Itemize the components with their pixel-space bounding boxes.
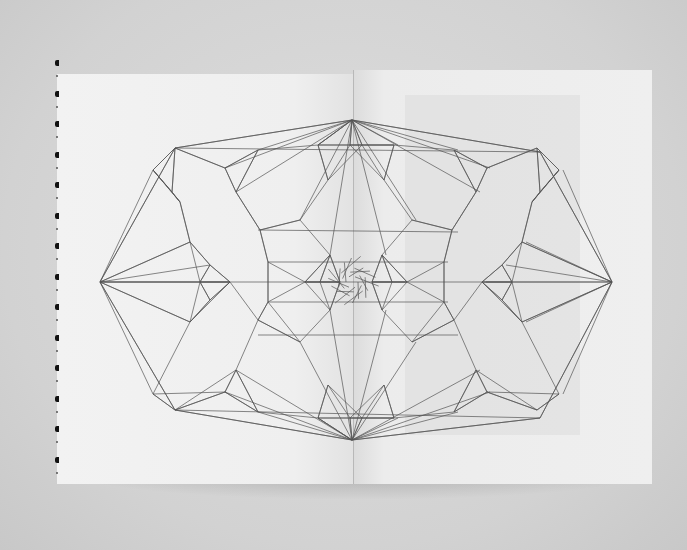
drawing-line: [384, 180, 412, 220]
drawing-line: [305, 255, 330, 282]
drawing-line: [372, 255, 382, 282]
drawing-line: [236, 192, 260, 230]
drawing-line: [476, 370, 537, 410]
drawing-line: [354, 268, 375, 277]
drawing-line: [355, 277, 379, 286]
drawing-line: [352, 120, 490, 168]
drawing-line: [365, 277, 366, 298]
drawing-line: [412, 220, 452, 230]
drawing-line: [506, 265, 612, 282]
drawing-line: [268, 282, 305, 302]
drawing-line: [482, 282, 522, 322]
drawing-line: [352, 370, 480, 440]
drawing-line: [153, 170, 180, 202]
drawing-line: [300, 180, 328, 220]
drawing-line: [394, 145, 454, 150]
drawing-line: [476, 168, 487, 192]
drawing-line: [258, 120, 352, 150]
drawing-line: [350, 385, 384, 418]
drawing-line: [328, 145, 350, 180]
drawing-line: [100, 148, 175, 282]
drawing-line: [330, 120, 352, 255]
drawing-line: [225, 120, 352, 168]
drawing-line: [487, 392, 537, 410]
drawing-line: [344, 291, 362, 305]
drawing-line: [352, 418, 540, 440]
drawing-line: [300, 342, 352, 440]
drawing-line: [358, 282, 359, 299]
drawing-line: [320, 255, 330, 282]
drawing-line: [537, 148, 540, 192]
drawing-line: [190, 282, 230, 322]
drawing-line: [487, 148, 537, 168]
drawing-line: [540, 282, 612, 418]
drawing-line: [563, 282, 612, 394]
drawing-line: [175, 148, 225, 168]
drawing-line: [444, 302, 454, 320]
drawing-line: [175, 410, 352, 440]
drawing-line: [360, 276, 368, 291]
drawing-line: [175, 120, 352, 148]
drawing-line: [180, 202, 190, 242]
drawing-line: [384, 385, 394, 418]
drawing-line: [100, 282, 175, 410]
drawing-line: [526, 282, 612, 322]
drawing-line: [454, 320, 476, 370]
drawing-line: [331, 286, 349, 296]
drawing-line: [330, 255, 340, 282]
drawing-line: [352, 120, 386, 255]
drawing-line: [372, 282, 382, 310]
drawing-line: [320, 282, 330, 310]
drawing-line: [318, 120, 352, 145]
drawing-line: [172, 148, 175, 192]
drawing-line: [502, 265, 512, 282]
drawing-line: [225, 168, 236, 192]
drawing-line: [153, 392, 225, 394]
drawing-line: [337, 291, 354, 292]
drawing-line: [200, 265, 210, 282]
drawing-line: [487, 392, 559, 394]
drawing-line: [268, 262, 305, 282]
drawing-line: [482, 282, 502, 300]
drawing-line: [352, 310, 386, 440]
drawing-line: [444, 230, 452, 262]
drawing-line: [100, 282, 153, 394]
drawing-line: [236, 370, 352, 440]
drawing-line: [454, 282, 482, 320]
drawing-line: [225, 392, 352, 440]
drawing-line: [330, 310, 352, 440]
drawing-line: [175, 370, 236, 410]
drawing-line: [210, 265, 230, 282]
drawing-line: [522, 202, 532, 242]
drawing-line: [260, 230, 268, 262]
drawing-line: [350, 271, 370, 272]
drawing-line: [260, 220, 300, 230]
drawing-line: [452, 192, 476, 230]
drawing-line: [100, 265, 210, 282]
drawing-line: [540, 152, 612, 282]
drawing-line: [153, 394, 175, 410]
drawing-line: [258, 302, 268, 320]
drawing-line: [382, 310, 412, 342]
drawing-line: [100, 282, 190, 322]
drawing-line: [318, 145, 328, 180]
drawing-line: [407, 262, 444, 282]
drawing-line: [153, 148, 175, 170]
drawing-line: [482, 265, 502, 282]
drawing-line: [236, 320, 258, 370]
drawing-line: [258, 230, 458, 232]
drawing-line: [352, 392, 490, 440]
drawing-line: [537, 394, 559, 410]
drawing-line: [153, 322, 190, 394]
drawing-line: [532, 170, 559, 202]
geometric-line-drawing: [0, 0, 687, 550]
drawing-line: [382, 255, 407, 282]
drawing-line: [382, 255, 392, 282]
drawing-line: [502, 282, 512, 300]
drawing-line: [175, 148, 540, 152]
drawing-line: [100, 170, 153, 282]
drawing-line: [522, 322, 559, 394]
drawing-line: [300, 310, 330, 342]
drawing-line: [230, 282, 258, 320]
drawing-line: [328, 385, 362, 418]
